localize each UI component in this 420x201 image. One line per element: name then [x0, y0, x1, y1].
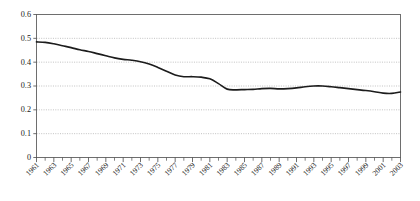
chart-canvas: 00.10.20.30.40.50.6 19611963196519671969… [0, 0, 420, 201]
x-axis-tick-label: 1969 [93, 160, 110, 177]
x-axis-tick-label: 1999 [353, 160, 370, 177]
x-axis-labels-group: 1961196319651967196919711973197519771979… [24, 160, 405, 177]
x-axis-tick-label: 1971 [110, 160, 127, 177]
x-axis-tick-label: 1995 [318, 160, 335, 177]
y-axis-tick-label: 0.1 [21, 129, 31, 138]
x-axis-tick-label: 2003 [388, 160, 405, 177]
x-axis-tick-label: 1997 [336, 160, 353, 177]
x-axis-tick-label: 1965 [58, 160, 75, 177]
x-axis-tick-label: 1977 [162, 160, 179, 177]
x-axis-tick-label: 1985 [232, 160, 249, 177]
x-axis-tick-label: 1991 [284, 160, 301, 177]
x-axis-tick-label: 1967 [76, 160, 93, 177]
x-axis-tick-label: 1981 [197, 160, 214, 177]
x-axis-tick-label: 1975 [145, 160, 162, 177]
x-axis-tick-label: 1979 [180, 160, 197, 177]
x-axis-tick-label: 1989 [266, 160, 283, 177]
y-axis-labels-group: 00.10.20.30.40.50.6 [21, 10, 31, 162]
x-axis-tick-label: 1993 [301, 160, 318, 177]
x-axis-tick-label: 1961 [24, 160, 41, 177]
x-axis-tick-label: 1973 [128, 160, 145, 177]
x-axis-tick-label: 2001 [370, 160, 387, 177]
y-axis-tick-label: 0.4 [21, 58, 31, 67]
line-chart: 00.10.20.30.40.50.6 19611963196519671969… [0, 0, 420, 201]
x-axis-tick-label: 1983 [214, 160, 231, 177]
y-axis-tick-label: 0.2 [21, 105, 31, 114]
y-axis-tick-label: 0.5 [21, 34, 31, 43]
y-axis-tick-label: 0.6 [21, 10, 31, 19]
y-axis-tick-label: 0 [27, 153, 31, 162]
y-axis-tick-label: 0.3 [21, 81, 31, 90]
x-axis-tick-label: 1987 [249, 160, 266, 177]
x-axis-tick-label: 1963 [41, 160, 58, 177]
